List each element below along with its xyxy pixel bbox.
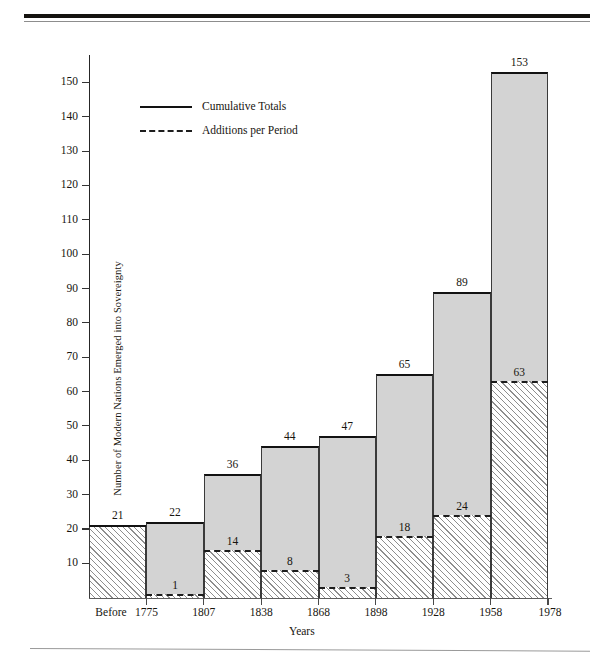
y-tick-label-text: 60 bbox=[48, 386, 78, 398]
bottom-rule bbox=[30, 648, 590, 652]
y-tick-mark bbox=[82, 494, 90, 495]
y-tick-mark bbox=[82, 288, 90, 289]
bar-value-label-additions: 18 bbox=[399, 521, 411, 534]
additions-cap-line bbox=[261, 570, 318, 572]
y-tick-label: 10 bbox=[44, 557, 78, 569]
y-tick-mark bbox=[82, 219, 90, 220]
y-tick-mark bbox=[82, 116, 90, 117]
y-tick-label-text: 30 bbox=[48, 489, 78, 501]
x-tick-mark bbox=[433, 598, 434, 605]
y-axis-title: Number of Modern Nations Emerged into So… bbox=[112, 229, 123, 529]
bar-value-label-cumulative: 65 bbox=[399, 358, 411, 371]
x-tick-label-text: 1838 bbox=[250, 606, 273, 619]
y-tick-mark bbox=[82, 391, 90, 392]
y-tick-label-text: 40 bbox=[48, 454, 78, 466]
x-tick-mark bbox=[146, 598, 147, 605]
bar-additions bbox=[204, 550, 261, 598]
bar-value-label-cumulative: 36 bbox=[227, 458, 239, 471]
y-tick-label: 130 bbox=[44, 145, 78, 157]
y-tick-label: 40 bbox=[44, 454, 78, 466]
y-tick-label-text: 10 bbox=[48, 557, 78, 569]
bar-value-label-cumulative: 47 bbox=[341, 420, 353, 433]
x-tick-mark bbox=[261, 598, 262, 605]
x-tick-mark bbox=[547, 598, 548, 605]
legend-label: Cumulative Totals bbox=[202, 99, 286, 113]
y-tick-label: 60 bbox=[44, 386, 78, 398]
bar-additions bbox=[376, 536, 433, 598]
y-tick-mark bbox=[82, 185, 90, 186]
y-tick-label-text: 110 bbox=[48, 214, 78, 226]
legend-label: Additions per Period bbox=[202, 123, 298, 137]
bar-value-label-cumulative: 153 bbox=[511, 56, 528, 69]
y-tick-label-text: 150 bbox=[48, 76, 78, 88]
additions-cap-line bbox=[146, 594, 203, 596]
y-tick-mark bbox=[82, 425, 90, 426]
bar-value-label-cumulative: 22 bbox=[169, 506, 181, 519]
x-tick-mark bbox=[375, 598, 376, 605]
y-tick-label: 90 bbox=[44, 283, 78, 295]
legend-dashed-line-icon bbox=[140, 130, 192, 132]
x-tick-label-text: 1868 bbox=[307, 606, 330, 619]
bar-value-label-additions: 63 bbox=[514, 366, 526, 379]
y-tick-label-text: 140 bbox=[48, 111, 78, 123]
bar-value-label-additions: 8 bbox=[287, 555, 293, 568]
additions-cap-line bbox=[491, 381, 548, 383]
y-tick-label: 70 bbox=[44, 351, 78, 363]
y-tick-label: 110 bbox=[44, 214, 78, 226]
y-tick-label: 20 bbox=[44, 523, 78, 535]
y-tick-label: 30 bbox=[44, 489, 78, 501]
bar-additions bbox=[261, 570, 318, 597]
bar-value-label-cumulative: 21 bbox=[112, 509, 124, 522]
y-tick-label: 80 bbox=[44, 317, 78, 329]
y-tick-label: 120 bbox=[44, 179, 78, 191]
y-tick-label: 50 bbox=[44, 420, 78, 432]
y-tick-mark bbox=[82, 151, 90, 152]
y-tick-mark bbox=[82, 460, 90, 461]
additions-cap-line bbox=[319, 587, 376, 589]
x-tick-mark bbox=[203, 598, 204, 605]
x-tick-label-text: 1958 bbox=[479, 606, 502, 619]
y-tick-label-text: 130 bbox=[48, 145, 78, 157]
x-tick-label-text: Before bbox=[95, 606, 126, 619]
additions-cap-line bbox=[204, 550, 261, 552]
x-tick-label-text: 1775 bbox=[135, 606, 158, 619]
x-tick-label-text: 1807 bbox=[192, 606, 215, 619]
x-tick-label-text: 1978 bbox=[539, 606, 562, 619]
x-tick-label-text: 1928 bbox=[422, 606, 445, 619]
y-tick-label-text: 70 bbox=[48, 351, 78, 363]
y-tick-label-text: 80 bbox=[48, 317, 78, 329]
bar-value-label-additions: 24 bbox=[456, 500, 468, 513]
additions-cap-line bbox=[433, 515, 490, 517]
legend-solid-line-icon bbox=[140, 106, 192, 108]
x-tick-mark bbox=[490, 598, 491, 605]
y-tick-label: 140 bbox=[44, 111, 78, 123]
y-tick-label: 150 bbox=[44, 76, 78, 88]
bar-additions bbox=[433, 515, 490, 597]
bar-value-label-additions: 14 bbox=[227, 535, 239, 548]
y-tick-mark bbox=[82, 322, 90, 323]
y-tick-mark bbox=[82, 254, 90, 255]
y-tick-label-text: 20 bbox=[48, 523, 78, 535]
bar-value-label-cumulative: 89 bbox=[456, 276, 468, 289]
bar-additions bbox=[89, 525, 146, 597]
top-rule-thick bbox=[24, 14, 590, 18]
y-tick-mark bbox=[82, 357, 90, 358]
y-tick-label-text: 120 bbox=[48, 179, 78, 191]
x-tick-mark bbox=[318, 598, 319, 605]
x-axis-title: Years bbox=[289, 625, 315, 637]
y-tick-label-text: 50 bbox=[48, 420, 78, 432]
bar-additions bbox=[491, 381, 548, 597]
x-tick-label-text: 1898 bbox=[364, 606, 387, 619]
additions-cap-line bbox=[376, 536, 433, 538]
footer-note bbox=[300, 659, 612, 669]
bar-value-label-additions: 1 bbox=[172, 579, 178, 592]
top-rule-thin bbox=[24, 21, 590, 22]
y-tick-label-text: 100 bbox=[48, 248, 78, 260]
bar-value-label-additions: 3 bbox=[344, 572, 350, 585]
additions-cap-line bbox=[89, 525, 146, 527]
bar-value-label-cumulative: 44 bbox=[284, 430, 296, 443]
y-tick-label: 100 bbox=[44, 248, 78, 260]
y-tick-label-text: 90 bbox=[48, 283, 78, 295]
chart-figure: Number of Modern Nations Emerged into So… bbox=[0, 0, 615, 669]
y-tick-mark bbox=[82, 82, 90, 83]
